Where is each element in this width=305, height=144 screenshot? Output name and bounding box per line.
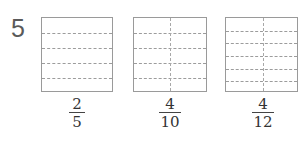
row-divider <box>226 81 297 82</box>
column-divider <box>263 18 264 91</box>
row-divider <box>42 48 112 49</box>
row-divider <box>226 56 297 57</box>
row-divider <box>226 31 297 32</box>
fraction-denominator: 10 <box>150 114 190 131</box>
fraction-denominator: 5 <box>57 114 97 131</box>
fraction-grid-2 <box>133 17 207 92</box>
fraction-label-1: 2 5 <box>57 97 97 131</box>
fraction-label-2: 4 10 <box>150 97 190 131</box>
fraction-grid-3 <box>225 17 298 92</box>
fraction-label-3: 4 12 <box>243 97 283 131</box>
fraction-numerator: 4 <box>243 97 283 112</box>
fraction-numerator: 2 <box>57 97 97 112</box>
fraction-grid-1 <box>41 17 113 92</box>
row-divider <box>226 69 297 70</box>
row-divider <box>42 33 112 34</box>
row-divider <box>226 43 297 44</box>
column-divider <box>170 18 171 91</box>
row-divider <box>42 78 112 79</box>
problem-number: 5 <box>11 14 25 42</box>
row-divider <box>42 63 112 64</box>
fraction-denominator: 12 <box>243 114 283 131</box>
fraction-numerator: 4 <box>150 97 190 112</box>
